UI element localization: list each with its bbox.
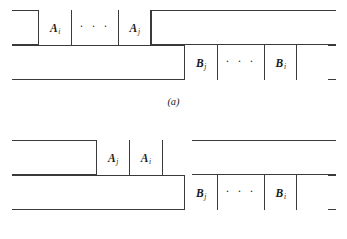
cell-b-lower-2: Bi (264, 175, 298, 210)
cell-label: Aj (108, 152, 118, 164)
cell-b-lower-1-ellipsis: · · · (217, 175, 265, 210)
cell-group-b-lower: Bj · · · Bi (184, 175, 328, 210)
panel-b: Aj Ai Bj · · · Bi (b) (0, 140, 347, 239)
cell-label-text: B (196, 57, 204, 69)
caption-a: (a) (0, 96, 347, 107)
cell-label-subscript: i (284, 62, 286, 71)
panel-a: Ai · · · Aj Bj · · · Bi (a) (0, 10, 347, 110)
cell-label-subscript: j (116, 157, 118, 166)
cell-a-upper-3-blank (150, 10, 151, 45)
cell-label-subscript: j (138, 27, 140, 36)
ellipsis-text: · · · (226, 184, 257, 199)
cell-label-text: A (130, 22, 138, 34)
cell-label-subscript: i (58, 27, 60, 36)
cell-a-upper-2: Aj (118, 10, 152, 45)
cell-label: Bj (196, 57, 206, 69)
cell-label-text: B (276, 187, 284, 199)
cell-a-lower-1-ellipsis: · · · (217, 45, 265, 80)
cell-label: Ai (141, 152, 151, 164)
cell-group-a-upper: Ai · · · Aj (38, 10, 151, 45)
cell-b-upper-1: Ai (129, 140, 163, 175)
figure-diagram: Ai · · · Aj Bj · · · Bi (a) (0, 0, 347, 239)
cell-b-upper-0: Aj (96, 140, 130, 175)
cell-a-lower-3-blank (296, 45, 328, 80)
cell-label-text: A (108, 152, 116, 164)
cell-label: Bi (276, 57, 286, 69)
cell-b-lower-0: Bj (184, 175, 218, 210)
cell-label-subscript: j (204, 62, 206, 71)
cell-label-subscript: j (204, 192, 206, 201)
cell-a-upper-0: Ai (38, 10, 72, 45)
cell-b-upper-2-blank (162, 140, 192, 175)
cell-label-text: B (196, 187, 204, 199)
cell-label: Bi (276, 187, 286, 199)
cell-label-subscript: i (149, 157, 151, 166)
cell-label: Ai (50, 22, 60, 34)
cell-a-lower-0: Bj (184, 45, 218, 80)
ellipsis-text: · · · (226, 54, 257, 69)
ellipsis-text: · · · (80, 19, 111, 34)
cell-label-text: B (276, 57, 284, 69)
cell-a-lower-2: Bi (264, 45, 298, 80)
cell-label-subscript: i (284, 192, 286, 201)
cell-a-upper-1-ellipsis: · · · (71, 10, 119, 45)
cell-label: Bj (196, 187, 206, 199)
cell-label-text: A (50, 22, 58, 34)
cell-label-text: A (141, 152, 149, 164)
cell-group-a-lower: Bj · · · Bi (184, 45, 328, 80)
cell-label: Aj (130, 22, 140, 34)
cell-b-lower-3-blank (296, 175, 328, 210)
cell-group-b-upper: Aj Ai (96, 140, 192, 175)
